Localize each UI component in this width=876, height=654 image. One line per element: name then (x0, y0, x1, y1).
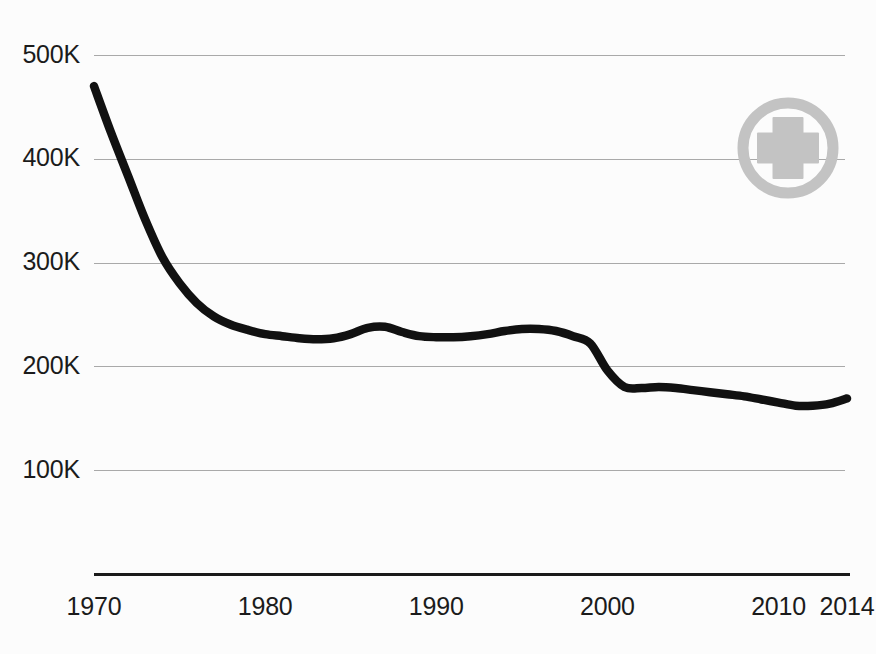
x-axis-tick-label: 2010 (751, 592, 806, 620)
y-axis-tick-label: 100K (22, 455, 80, 483)
line-chart: 500K400K300K200K100K 1970198019902000201… (0, 0, 876, 654)
x-axis-tick-label: 1970 (67, 592, 122, 620)
x-axis-tick-label: 2000 (580, 592, 635, 620)
x-axis-tick-label: 2014 (820, 592, 875, 620)
y-axis-tick-label: 500K (22, 40, 80, 68)
y-axis-tick-label: 200K (22, 351, 80, 379)
medical-cross-circle-icon (743, 103, 833, 193)
gridlines (94, 56, 845, 471)
y-axis-tick-labels: 500K400K300K200K100K (22, 40, 80, 483)
x-axis-tick-label: 1980 (238, 592, 293, 620)
chart-canvas: 500K400K300K200K100K 1970198019902000201… (0, 0, 876, 654)
x-axis-tick-label: 1990 (409, 592, 464, 620)
badge-cross-horizontal (757, 133, 819, 164)
y-axis-tick-label: 400K (22, 143, 80, 171)
data-series-line (94, 86, 847, 406)
y-axis-tick-label: 300K (22, 247, 80, 275)
x-axis-tick-labels: 197019801990200020102014 (67, 592, 875, 620)
